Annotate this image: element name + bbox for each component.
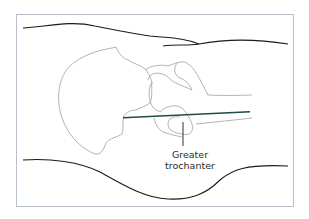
greater-trochanter-outline — [162, 106, 193, 135]
needle — [123, 111, 250, 119]
femoral-shaft-lower — [196, 118, 252, 124]
label-line-1: Greater — [150, 149, 230, 160]
lesser-trochanter-outline — [154, 118, 182, 137]
ilium-outline — [59, 47, 152, 154]
upper-skin-contour-right — [163, 40, 288, 46]
label-line-2: trochanter — [150, 160, 230, 171]
femoral-head-outline — [145, 62, 252, 96]
femoral-neck-outline — [149, 82, 162, 111]
greater-trochanter-label: Greater trochanter — [150, 149, 230, 171]
hip-diagram — [0, 0, 309, 219]
upper-skin-contour-left — [23, 24, 199, 44]
